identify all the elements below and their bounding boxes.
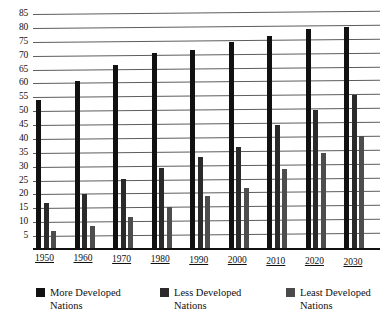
y-axis-tick-60: 60	[2, 78, 28, 88]
bar-group-2000	[226, 14, 265, 250]
bar-2010-more	[267, 36, 272, 250]
legend-label-line1: Least Developed	[300, 286, 371, 299]
bar-1970-least	[128, 217, 133, 250]
bar-1990-least	[205, 196, 210, 250]
y-axis-tick-15: 15	[2, 203, 28, 213]
bar-group-1990	[187, 14, 226, 250]
legend-label-line2: Nations	[300, 299, 371, 312]
legend-label-less: Less DevelopedNations	[174, 286, 241, 312]
y-axis-tick-20: 20	[2, 189, 28, 199]
y-axis-tick-80: 80	[2, 23, 28, 33]
legend-swatch-icon-more	[36, 288, 45, 297]
y-axis-tick-65: 65	[2, 65, 28, 75]
x-axis-tick-1990: 1990	[189, 254, 208, 266]
plot-area	[33, 14, 380, 250]
bar-group-1970	[110, 14, 149, 250]
bar-group-1980	[149, 14, 188, 250]
bar-1960-less	[82, 194, 87, 250]
y-axis-tick-35: 35	[2, 148, 28, 158]
legend-label-line1: Less Developed	[174, 286, 241, 299]
y-axis-tick-85: 85	[2, 9, 28, 19]
x-axis-tick-labels: 195019601970198019902000201020202030	[33, 252, 380, 268]
y-axis-tick-50: 50	[2, 106, 28, 116]
bar-group-1960	[72, 14, 111, 250]
bar-1990-less	[198, 157, 203, 250]
y-axis-tick-25: 25	[2, 176, 28, 186]
bar-1970-less	[121, 179, 126, 250]
y-axis-tick-40: 40	[2, 134, 28, 144]
x-axis-tick-1980: 1980	[151, 253, 170, 265]
bar-group-2020	[303, 14, 342, 250]
bar-1960-more	[75, 81, 80, 250]
legend-item-less: Less DevelopedNations	[160, 286, 241, 312]
bar-2020-less	[313, 110, 318, 250]
bar-2030-more	[344, 27, 349, 251]
y-axis-tick-10: 10	[2, 217, 28, 227]
plot-wrapper: 858075706560555045403530252015105 195019…	[0, 0, 390, 272]
legend-item-more: More DevelopedNations	[36, 286, 121, 312]
x-axis-tick-2030: 2030	[343, 256, 362, 268]
bar-group-2010	[264, 14, 303, 250]
bar-1960-least	[90, 226, 95, 250]
y-axis-tick-45: 45	[2, 120, 28, 130]
bar-chart: 858075706560555045403530252015105 195019…	[0, 0, 390, 329]
y-axis-tick-30: 30	[2, 162, 28, 172]
y-axis-tick-70: 70	[2, 51, 28, 61]
x-axis-tick-1970: 1970	[112, 253, 131, 265]
bar-2010-less	[275, 125, 280, 250]
legend-swatch-icon-less	[160, 288, 169, 297]
legend-label-least: Least DevelopedNations	[300, 286, 371, 312]
bar-1950-least	[51, 231, 56, 250]
x-axis-tick-2000: 2000	[228, 254, 247, 266]
x-axis-tick-1950: 1950	[35, 252, 54, 264]
legend-swatch-icon-least	[286, 288, 295, 297]
chart-legend: More DevelopedNationsLess DevelopedNatio…	[0, 286, 390, 329]
x-axis-tick-2020: 2020	[305, 255, 324, 267]
bar-group-1950	[33, 14, 72, 250]
bar-1970-more	[113, 65, 118, 250]
legend-label-line2: Nations	[174, 299, 241, 312]
bar-1950-less	[44, 203, 49, 250]
bars-layer	[33, 14, 380, 250]
legend-item-least: Least DevelopedNations	[286, 286, 371, 312]
bar-1950-more	[36, 100, 41, 250]
bar-1980-more	[152, 53, 157, 250]
legend-label-more: More DevelopedNations	[50, 286, 121, 312]
legend-label-line2: Nations	[50, 299, 121, 312]
bar-2020-more	[306, 29, 311, 250]
bar-1990-more	[190, 50, 195, 250]
bar-1980-less	[159, 168, 164, 250]
bar-2030-least	[359, 136, 364, 250]
x-axis-tick-2010: 2010	[266, 255, 285, 267]
bar-2030-less	[352, 95, 357, 250]
y-axis-tick-5: 5	[2, 231, 28, 241]
y-axis-tick-labels: 858075706560555045403530252015105	[2, 0, 28, 272]
bar-2010-least	[282, 169, 287, 250]
x-axis-tick-1960: 1960	[74, 252, 93, 264]
y-axis-tick-75: 75	[2, 37, 28, 47]
legend-label-line1: More Developed	[50, 286, 121, 299]
bar-2000-more	[229, 42, 234, 250]
bar-2020-least	[321, 153, 326, 250]
x-axis-line	[33, 248, 380, 250]
bar-2000-least	[244, 188, 249, 250]
bar-2000-less	[236, 147, 241, 250]
y-axis-tick-55: 55	[2, 92, 28, 102]
bar-group-2030	[341, 14, 380, 250]
bar-1980-least	[167, 207, 172, 250]
